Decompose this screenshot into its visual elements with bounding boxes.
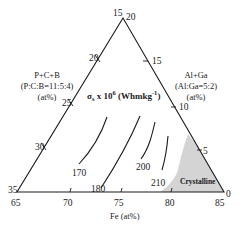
bottom-tick-75: 75 xyxy=(114,198,124,208)
contour-label-170: 170 xyxy=(72,168,87,178)
contour-210 xyxy=(162,136,168,170)
title-close: ) xyxy=(157,91,160,101)
left-tick-35: 35 xyxy=(8,185,18,195)
left-tick-30: 30 xyxy=(35,142,45,152)
right-axis-label-line2: (Al:Ga=5:2) xyxy=(175,81,217,91)
contour-180 xyxy=(101,116,140,188)
left-tick-25: 25 xyxy=(62,98,72,108)
right-tick-10: 10 xyxy=(179,102,189,112)
right-tick-20: 20 xyxy=(126,12,136,22)
diagram-title: σs x 106 (Whmkg-1) xyxy=(87,89,160,102)
bottom-axis-ticks xyxy=(70,188,172,192)
left-axis-label-line2: (P:C:B=11:5:4) xyxy=(21,81,74,91)
right-axis-label-line3: (at%) xyxy=(187,92,206,102)
bottom-tick-85: 85 xyxy=(215,198,225,208)
right-tick-5: 5 xyxy=(203,146,208,156)
contour-label-180: 180 xyxy=(91,184,106,194)
right-tick-0: 0 xyxy=(226,189,231,199)
bottom-tick-70: 70 xyxy=(63,198,73,208)
right-axis-label-line1: Al+Ga xyxy=(184,70,207,80)
contour-200 xyxy=(141,122,155,159)
title-unit: (Whmkg xyxy=(116,91,153,101)
contour-170 xyxy=(79,117,107,164)
left-axis-label-line3: (at%) xyxy=(38,92,57,102)
title-mid: x 10 xyxy=(94,91,113,101)
crystalline-label: Crystalline xyxy=(180,177,216,186)
contour-label-210: 210 xyxy=(151,178,166,188)
left-tick-15: 15 xyxy=(113,8,123,18)
bottom-axis-label: Fe (at%) xyxy=(110,211,140,221)
bottom-tick-80: 80 xyxy=(165,198,175,208)
bottom-tick-65: 65 xyxy=(11,198,21,208)
left-tick-20: 20 xyxy=(89,53,99,63)
left-axis-label-line1: P+C+B xyxy=(34,70,60,80)
ternary-diagram: 15 20 20 25 30 35 15 10 5 0 65 70 75 80 … xyxy=(0,0,245,227)
contour-label-200: 200 xyxy=(136,162,151,172)
right-tick-15: 15 xyxy=(152,56,162,66)
